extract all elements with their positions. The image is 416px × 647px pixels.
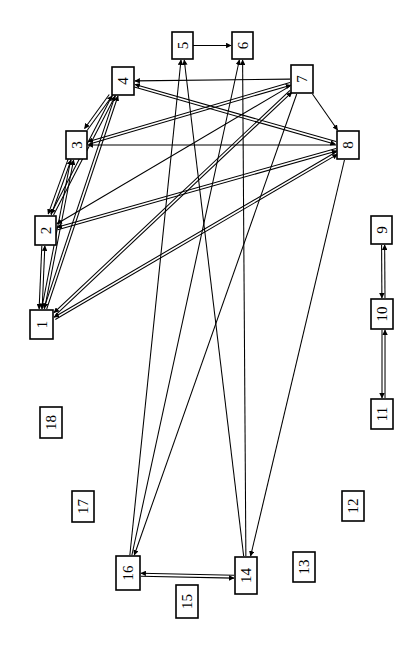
node-label: 18 xyxy=(43,415,59,430)
node-label: 7 xyxy=(294,75,310,83)
graph-node-8[interactable]: 8 xyxy=(337,131,359,159)
graph-node-1[interactable]: 1 xyxy=(30,310,53,339)
node-label: 2 xyxy=(38,227,54,235)
graph-node-4[interactable]: 4 xyxy=(112,67,134,95)
graph-edge xyxy=(141,576,234,578)
node-label: 3 xyxy=(69,141,85,149)
graph-svg: 123456789101112131415161718 xyxy=(0,0,416,647)
graph-edge xyxy=(54,90,290,312)
node-label: 10 xyxy=(374,307,390,322)
graph-node-10[interactable]: 10 xyxy=(371,299,393,329)
graph-node-14[interactable]: 14 xyxy=(235,557,257,594)
graph-node-11[interactable]: 11 xyxy=(371,399,393,429)
node-label: 6 xyxy=(235,41,251,49)
graph-edge xyxy=(312,94,337,130)
graph-node-12[interactable]: 12 xyxy=(342,491,364,521)
node-label: 11 xyxy=(374,407,390,421)
graph-node-9[interactable]: 9 xyxy=(371,216,392,244)
graph-node-7[interactable]: 7 xyxy=(291,65,313,93)
graph-node-17[interactable]: 17 xyxy=(72,491,94,522)
graph-node-13[interactable]: 13 xyxy=(293,552,315,582)
graph-node-3[interactable]: 3 xyxy=(66,131,87,159)
graph-edge xyxy=(58,151,337,230)
node-label: 13 xyxy=(296,560,312,575)
graph-node-15[interactable]: 15 xyxy=(176,585,198,618)
diagram-canvas: 123456789101112131415161718 xyxy=(0,0,416,647)
graph-edge xyxy=(132,60,239,555)
graph-node-16[interactable]: 16 xyxy=(116,556,140,590)
graph-edge xyxy=(141,573,234,575)
graph-edge xyxy=(184,60,243,556)
graph-node-18[interactable]: 18 xyxy=(40,407,62,438)
node-label: 15 xyxy=(179,594,195,609)
node-label: 12 xyxy=(345,499,361,514)
graph-node-2[interactable]: 2 xyxy=(35,216,56,245)
node-label: 5 xyxy=(175,42,191,50)
graph-node-5[interactable]: 5 xyxy=(172,32,193,59)
node-layer: 123456789101112131415161718 xyxy=(30,32,393,618)
node-label: 1 xyxy=(34,321,50,329)
graph-edge xyxy=(134,87,335,144)
graph-node-6[interactable]: 6 xyxy=(232,32,253,59)
node-label: 9 xyxy=(374,226,390,234)
graph-edge xyxy=(39,246,42,309)
graph-edge xyxy=(47,96,118,309)
graph-edge xyxy=(54,152,336,317)
node-label: 17 xyxy=(75,499,91,515)
node-label: 8 xyxy=(340,141,356,149)
graph-edge xyxy=(135,79,290,81)
graph-edge xyxy=(130,60,181,555)
node-label: 4 xyxy=(115,77,131,85)
graph-edge xyxy=(251,160,345,556)
node-label: 14 xyxy=(238,568,254,584)
graph-edge xyxy=(44,95,115,308)
graph-edge xyxy=(243,60,246,556)
node-label: 16 xyxy=(120,565,136,581)
